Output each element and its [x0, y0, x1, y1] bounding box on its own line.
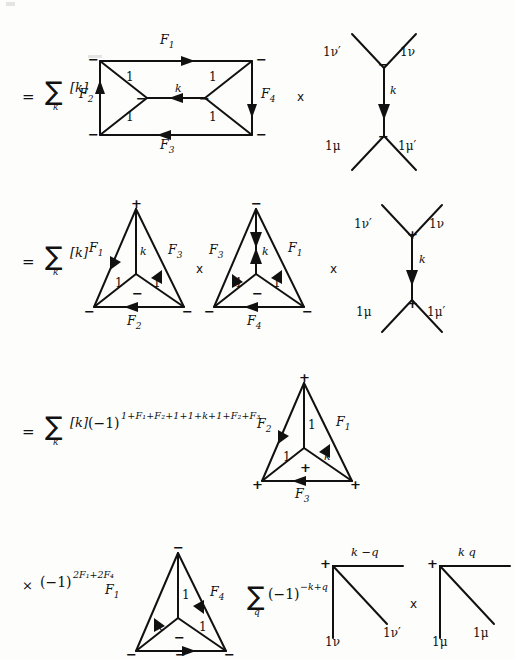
tri3-label-F2-base: F [257, 416, 266, 431]
triangle-plus [256, 378, 366, 493]
tri1-label-F1-sub: 1 [98, 248, 104, 258]
row2-equals: = [22, 253, 35, 271]
rect-label-F1-base: F [160, 32, 169, 47]
row3-equals: = [22, 423, 35, 441]
row3-bracket: [k] [70, 415, 88, 430]
tri2-inner-left: 1 [235, 276, 243, 290]
tri2-center-sign: − [252, 287, 263, 300]
tri1-label-F3-sub: 3 [177, 250, 183, 260]
row1-equals: = [22, 88, 35, 106]
prop2-label-top-left: 1ν′ [354, 217, 372, 231]
rect-corner-sign-br: − [256, 128, 267, 141]
triangle-middle [208, 204, 318, 319]
tri1-label-F3-base: F [168, 242, 177, 257]
rect-label-k: k [175, 82, 182, 95]
tri1-label-F2-sub: 2 [136, 321, 142, 331]
tri4-center-sign: − [174, 631, 185, 644]
tri4-label-F4: F4 [210, 584, 224, 602]
rect-inner-1-tr: 1 [209, 70, 217, 84]
rect-vertex-sign-right: − [199, 92, 210, 105]
row4-sumq-phase-exponent: −k+q [300, 581, 328, 592]
row3-phase-exponent: 1+F₁+F₂+1+1+k+1+F₂+F₃ [121, 410, 260, 421]
prop1-label-top-left: 1ν′ [323, 45, 341, 59]
prop1-label-top-right: 1ν [400, 45, 415, 59]
corner-mu-leg-label: 1μ [432, 635, 447, 649]
rect-vertex-sign-left: − [136, 92, 147, 105]
prop1-label-bottom-left: 1μ [325, 139, 340, 153]
prop2-label-k: k [419, 253, 426, 266]
tri3-center-sign: + [300, 461, 311, 474]
rect-inner-1-tl: 1 [126, 70, 134, 84]
tri2-label-F4-sub: 4 [256, 321, 262, 331]
rect-label-F2: F2 [79, 86, 93, 104]
tri3-inner-right: k [324, 450, 331, 463]
prop2-label-bottom-right: 1μ′ [427, 305, 445, 319]
corner-nu-diag-label: 1ν′ [383, 626, 401, 640]
tri2-label-F4: F4 [247, 313, 261, 331]
tri1-apex-sign: + [131, 197, 142, 210]
tri4-label-F1-base: F [105, 582, 114, 597]
tri2-label-k: k [262, 245, 269, 258]
tri1-label-k: k [140, 245, 147, 258]
tri4-inner-left: k [156, 620, 163, 633]
tri3-spoke-label: 1 [308, 418, 316, 432]
tri4-bottom-mid-sign: − [175, 648, 186, 660]
tri3-label-F3: F3 [295, 486, 309, 504]
tri3-label-F1-sub: 1 [345, 422, 351, 432]
tri3-label-F3-base: F [295, 486, 304, 501]
tri3-inner-left: 1 [283, 450, 291, 464]
corner-nu-top-label: k −q [351, 545, 379, 559]
tri1-right-sign: − [182, 305, 193, 318]
tri3-label-F2-sub: 2 [266, 424, 272, 434]
tri2-label-F3: F3 [209, 242, 223, 260]
tri4-spoke-label: 1 [182, 588, 190, 602]
rect-corner-sign-tl: − [88, 53, 99, 66]
row4-times: × [22, 578, 33, 593]
tri4-left-sign: − [126, 648, 137, 660]
row2-bracket: [k] [70, 245, 88, 260]
row4-sum-q: ∑ q [247, 583, 265, 609]
tri3-label-F1-base: F [336, 414, 345, 429]
row3-sum: ∑ k [45, 413, 63, 439]
row1-times-operator: x [297, 90, 304, 104]
tri2-left-sign: − [204, 305, 215, 318]
tri2-inner-right: 1 [273, 276, 281, 290]
rect-inner-1-bl: 1 [126, 110, 134, 124]
tri3-apex-sign: + [299, 371, 310, 384]
rect-label-F1-sub: 1 [169, 40, 175, 50]
row4-phase-base: (−1) [40, 574, 72, 590]
rect-label-F3-sub: 3 [169, 145, 175, 155]
tri2-label-F1-base: F [288, 240, 297, 255]
prop2-label-top-right: 1ν [429, 217, 444, 231]
corner-mu-diag-label: 1μ [473, 626, 488, 640]
tri4-apex-sign: − [173, 541, 184, 554]
tri1-inner-left: 1 [115, 276, 123, 290]
tri3-left-sign: + [252, 478, 263, 491]
rect-label-F3-base: F [160, 137, 169, 152]
tri1-left-sign: − [84, 305, 95, 318]
rect-corner-sign-tr: − [256, 53, 267, 66]
row3-sum-index: k [53, 437, 58, 447]
tri2-label-F1-sub: 1 [297, 248, 303, 258]
prop2-sign-bottom: + [407, 297, 418, 310]
rect-label-F3: F3 [160, 137, 174, 155]
tri3-label-F3-sub: 3 [304, 494, 310, 504]
prop1-label-k: k [390, 84, 397, 97]
tri2-label-F1: F1 [288, 240, 302, 258]
tri2-label-F3-sub: 3 [218, 250, 224, 260]
corner-nu-sign: + [320, 557, 331, 570]
prop2-label-bottom-left: 1μ [356, 305, 371, 319]
tri1-label-F3: F3 [168, 242, 182, 260]
scan-speck-top-left [6, 2, 15, 6]
row2-sum: ∑ k [45, 243, 63, 269]
tri1-label-F1: F1 [89, 240, 103, 258]
rect-corner-sign-bl: − [88, 128, 99, 141]
tri3-label-F2: F2 [257, 416, 271, 434]
double-theta-rectangle [95, 52, 265, 162]
tri4-label-F1: F1 [105, 582, 119, 600]
tri2-right-sign: − [302, 305, 313, 318]
tri4-inner-right: 1 [199, 620, 207, 634]
prop1-sign-bottom: − [378, 130, 389, 143]
prop1-sign-top: − [378, 58, 389, 71]
